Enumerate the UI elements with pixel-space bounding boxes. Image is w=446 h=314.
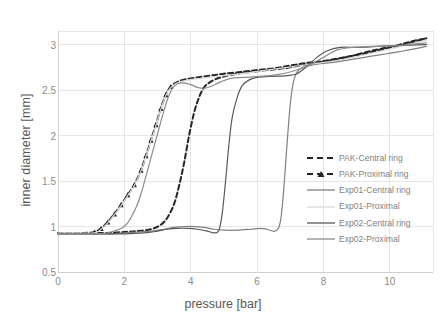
legend-item[interactable]: PAK-Central ring [306, 150, 411, 166]
legend-item[interactable]: Exp01-Proximal [306, 199, 411, 215]
x-tick-label: 8 [308, 276, 338, 287]
legend-item[interactable]: Exp02-Proximal [306, 231, 411, 247]
x-tick-label: 0 [43, 276, 73, 287]
legend-label: PAK-Central ring [339, 154, 403, 163]
x-tick-label: 4 [176, 276, 206, 287]
legend-key-dashed-icon [306, 168, 336, 180]
y-tick-label: 1 [32, 221, 56, 232]
x-tick-label: 2 [109, 276, 139, 287]
y-tick-label: 3 [32, 39, 56, 50]
legend-label: Exp01-Central ring [339, 186, 411, 195]
legend-item[interactable]: Exp02-Central ring [306, 215, 411, 231]
chart-container: inner diameter [mm] pressure [bar] 0.511… [0, 0, 446, 314]
x-axis-tick-labels: 0246810 [0, 274, 446, 294]
y-tick-label: 2 [32, 130, 56, 141]
chart-legend: PAK-Central ringPAK-Proximal ringExp01-C… [306, 150, 411, 247]
x-axis-title: pressure [bar] [0, 297, 446, 311]
legend-key-solid-icon [306, 184, 336, 196]
x-tick-label: 10 [375, 276, 405, 287]
y-tick-label: 2.5 [32, 85, 56, 96]
legend-label: Exp02-Central ring [339, 219, 411, 228]
x-tick-label: 6 [242, 276, 272, 287]
legend-label: PAK-Proximal ring [339, 170, 409, 179]
y-tick-label: 1.5 [32, 176, 56, 187]
legend-key-solid-icon [306, 233, 336, 245]
legend-key-dashed-icon [306, 152, 336, 164]
y-axis-tick-labels: 0.511.522.53 [0, 0, 56, 314]
legend-item[interactable]: PAK-Proximal ring [306, 166, 411, 182]
legend-label: Exp01-Proximal [339, 202, 400, 211]
legend-label: Exp02-Proximal [339, 235, 400, 244]
legend-item[interactable]: Exp01-Central ring [306, 182, 411, 198]
legend-key-solid-icon [306, 217, 336, 229]
legend-key-solid-icon [306, 201, 336, 213]
